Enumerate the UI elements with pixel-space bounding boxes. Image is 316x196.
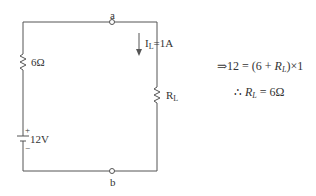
eq2-prefix: ∴ [234,85,245,99]
load-subscript: L [173,94,178,103]
eq1-suffix: )×1 [286,59,303,73]
current-label: IL=1A [145,38,173,51]
eq1-var: R [275,59,282,73]
resistor-load-icon [154,87,160,103]
equation-line-2: ∴ RL = 6Ω [234,86,284,100]
node-b-terminal [110,169,115,174]
eq1-prefix: ⇒12 = (6 + [217,59,275,73]
current-value: =1A [154,37,174,49]
battery-minus-label: − [25,144,30,153]
battery-value-label: 12V [30,134,49,145]
node-a-label: a [110,10,115,21]
resistor-6ohm-label: 6Ω [31,57,45,68]
load-resistor-label: RL [166,90,178,103]
eq2-suffix: = 6Ω [257,85,285,99]
equation-line-1: ⇒12 = (6 + RL)×1 [217,60,303,74]
resistor-6ohm-icon [20,54,26,70]
node-b-label: b [110,177,116,188]
